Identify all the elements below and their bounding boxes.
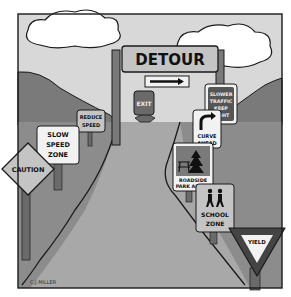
svg-text:SLOWER: SLOWER	[210, 92, 233, 97]
cartoon-illustration: DETOUR EXIT SLOWER TRAFFIC KEEP RIGHT RE…	[0, 0, 291, 297]
exit-text: EXIT	[136, 100, 152, 107]
svg-text:SLOW: SLOW	[47, 131, 68, 139]
svg-text:REDUCE: REDUCE	[80, 114, 103, 120]
svg-text:SPEED: SPEED	[46, 141, 70, 149]
svg-text:ZONE: ZONE	[206, 220, 225, 227]
detour-sign-text: DETOUR	[135, 51, 205, 69]
yield-text: YIELD	[247, 239, 266, 245]
svg-text:SPEED: SPEED	[82, 122, 100, 128]
svg-text:TRAFFIC: TRAFFIC	[210, 99, 233, 104]
curve-ahead-sign: CURVE AHEAD	[193, 110, 221, 148]
artist-signature: C.J.MILLER	[30, 279, 57, 285]
svg-text:ROADSIDE: ROADSIDE	[179, 178, 207, 183]
svg-text:ZONE: ZONE	[48, 151, 68, 159]
exit-sign: EXIT	[134, 91, 155, 122]
caution-text: CAUTION	[12, 166, 45, 174]
svg-text:CURVE: CURVE	[198, 133, 217, 139]
svg-text:SCHOOL: SCHOOL	[201, 211, 229, 218]
